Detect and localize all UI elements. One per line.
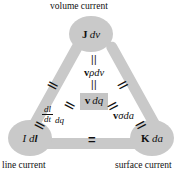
lower-right-term-vsigmada: vσda — [113, 110, 134, 121]
boxed-term-dq: dq — [92, 94, 103, 106]
lower-right-term-da: da — [123, 110, 134, 121]
relation-mark-bottom-edge: = — [88, 133, 96, 146]
node-top-symbol-J: J — [82, 29, 88, 40]
highlighted-term-vdq: v dq — [80, 93, 109, 110]
caption-line-current: line current — [2, 160, 46, 170]
node-left-symbol-l: l — [34, 133, 37, 144]
lower-left-term-dq: dq — [55, 115, 64, 125]
center-equivalence-chain: || vρdv || v dq — [0, 54, 188, 111]
center-term-vrhodv: vρdv — [84, 67, 104, 78]
center-term-dv: dv — [94, 67, 104, 78]
node-right-symbol-da: da — [152, 133, 163, 144]
node-volume-current: J dv — [69, 16, 113, 52]
node-top-symbol-dv: dv — [90, 29, 100, 40]
center-relation-2: || — [91, 80, 97, 90]
node-right-symbol-K: K — [141, 133, 150, 144]
fraction-numerator-dl: dl — [42, 105, 53, 114]
equivalence-triangle-diagram: volume current line current surface curr… — [0, 0, 188, 174]
node-left-symbol-Id: I d — [23, 133, 35, 144]
boxed-term-v: v — [85, 94, 91, 106]
caption-volume-current: volume current — [50, 1, 108, 11]
lower-left-term-dldt-dq: dl dt dq — [42, 105, 64, 125]
node-line-current: I dl — [8, 120, 52, 156]
caption-surface-current: surface current — [115, 160, 172, 170]
center-relation-1: || — [91, 55, 97, 65]
fraction-dl-dt: dl dt — [42, 105, 53, 125]
